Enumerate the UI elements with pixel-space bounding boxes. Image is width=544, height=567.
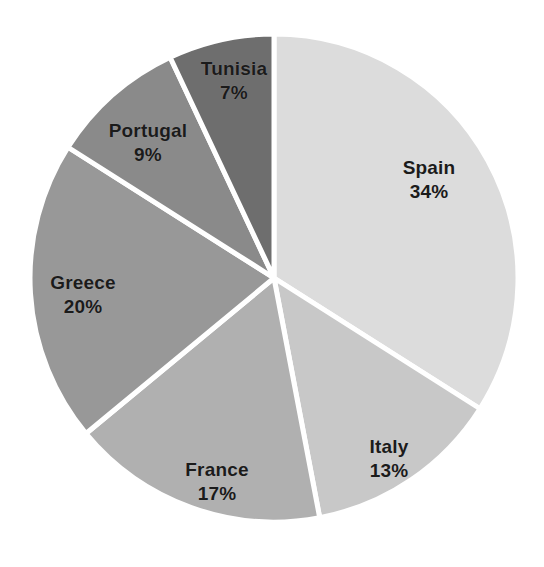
pie-label-value: 20% xyxy=(50,295,116,319)
pie-label-value: 17% xyxy=(185,482,249,506)
pie-label-name: Tunisia xyxy=(201,57,268,81)
pie-label-value: 13% xyxy=(369,459,408,483)
pie-label-name: Spain xyxy=(403,156,456,180)
pie-label-name: Greece xyxy=(50,271,116,295)
pie-label-france: France17% xyxy=(185,458,249,507)
pie-chart: Spain34%Italy13%France17%Greece20%Portug… xyxy=(0,0,544,567)
pie-label-value: 7% xyxy=(201,81,268,105)
pie-label-tunisia: Tunisia7% xyxy=(201,57,268,106)
pie-label-name: Italy xyxy=(369,435,408,459)
pie-label-name: Portugal xyxy=(109,119,188,143)
pie-label-portugal: Portugal9% xyxy=(109,119,188,168)
pie-label-italy: Italy13% xyxy=(369,435,408,484)
pie-label-greece: Greece20% xyxy=(50,271,116,320)
pie-label-value: 34% xyxy=(403,180,456,204)
pie-label-spain: Spain34% xyxy=(403,156,456,205)
pie-label-value: 9% xyxy=(109,143,188,167)
pie-label-name: France xyxy=(185,458,249,482)
